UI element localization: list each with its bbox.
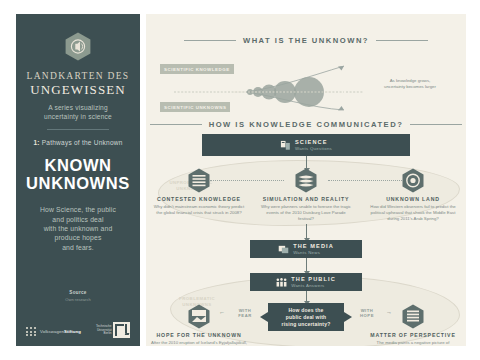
with-fear-label: WITH FEAR (230, 308, 260, 319)
people-icon (276, 277, 287, 288)
brand-tagline: A series visualizing uncertainty in scie… (26, 104, 130, 121)
central-question-box: How does the public deal with rising unc… (268, 303, 344, 331)
node-science-title: SCIENCE (295, 139, 332, 145)
sidebar: LANDKARTEN DES UNGEWISSEN A series visua… (16, 14, 140, 346)
arrow-columns-to-media (306, 224, 307, 238)
arrow-to-perspective-node: → (386, 309, 392, 315)
tag-scientific-unknowns: SCIENTIFIC UNKNOWNS (160, 102, 230, 112)
outcome-body-perspective: The media paints a negative picture of d… (365, 340, 461, 346)
partner-logos: VolkswagenStiftung Technische Universitä… (26, 312, 130, 338)
newspaper-icon (278, 244, 289, 255)
hexagon-crowd-icon (295, 168, 317, 193)
tu-berlin-mark-icon (113, 322, 130, 338)
partner-right-text: Technische Universität Berlin (96, 325, 111, 338)
hexagon-globe-icon (402, 168, 424, 193)
source-label: Source (16, 290, 140, 295)
heading-rule-right (376, 40, 428, 41)
with-hope-label: WITH HOPE (352, 308, 382, 319)
node-science-text: SCIENCE Wants Questions (295, 139, 332, 151)
node-public-text: THE PUBLIC Wants Answers (291, 276, 336, 288)
partner-logo-right: Technische Universität Berlin (96, 322, 130, 338)
outcome-heading-hope: HOPE FOR THE UNKNOWN (151, 332, 247, 338)
source-block: Source Own research (16, 290, 140, 302)
hexagon-layers-icon (188, 168, 210, 193)
brand-line-2: UNGEWISSEN (26, 83, 130, 97)
column-body-unknown-land: How did Western observers fail to predic… (365, 204, 461, 221)
issue-line: 1: Pathways of the Unknown (26, 139, 130, 146)
section-heading-communicated-text: HOW IS KNOWLEDGE COMMUNICATED? (209, 120, 404, 129)
dot-grid-icon (26, 327, 37, 336)
section-heading-unknown-text: WHAT IS THE UNKNOWN? (243, 36, 369, 45)
heading-rule-right-2 (410, 124, 462, 125)
flask-icon (280, 140, 291, 151)
partner-logo-left: VolkswagenStiftung (26, 327, 81, 336)
arrow-science-to-columns (306, 156, 307, 168)
node-public-subtitle: Wants Answers (291, 283, 336, 288)
arrow-media-to-public (306, 258, 307, 271)
heading-rule-left-2 (150, 124, 202, 125)
connector-left (210, 180, 284, 181)
arrow-public-to-question (306, 291, 307, 301)
column-body-simulation: Why were planners unable to foresee the … (258, 204, 354, 221)
node-public[interactable]: THE PUBLIC Wants Answers (250, 273, 362, 291)
issue-label: Pathways of the Unknown (42, 139, 123, 146)
heading-rule-left (184, 40, 236, 41)
hexagon-chart-icon (402, 304, 424, 329)
partner-right-line-3: Berlin (96, 332, 111, 336)
outcome-heading-perspective: MATTER OF PERSPECTIVE (365, 332, 461, 338)
partner-left-name: Volkswagen (40, 329, 64, 334)
node-science[interactable]: SCIENCE Wants Questions (202, 134, 410, 156)
node-science-subtitle: Wants Questions (295, 146, 332, 151)
node-media-text: THE MEDIA Wants News (293, 243, 334, 255)
outcome-body-hope: After the 2010 eruption of Iceland's Eyj… (151, 340, 247, 346)
node-media[interactable]: THE MEDIA Wants News (250, 240, 362, 258)
section-heading-unknown: WHAT IS THE UNKNOWN? (146, 36, 466, 45)
column-heading-simulation: SIMULATION AND REALITY (258, 196, 354, 202)
source-text: Own research (16, 297, 140, 302)
hexagon-speaker-icon (65, 32, 91, 61)
page-blurb: How Science, the public and politics dea… (26, 205, 130, 252)
partner-left-text: VolkswagenStiftung (40, 329, 81, 334)
unknown-growth-note: As knowledge grows, uncertainty becomes … (368, 78, 452, 90)
column-heading-unknown-land: UNKNOWN LAND (365, 196, 461, 202)
issue-number: 1: (33, 139, 39, 146)
node-public-title: THE PUBLIC (291, 276, 336, 282)
arrow-to-hope-node: ← (219, 309, 225, 315)
tag-scientific-knowledge: SCIENTIFIC KNOWLEDGE (160, 64, 234, 74)
infographic-poster: LANDKARTEN DES UNGEWISSEN A series visua… (0, 0, 480, 360)
main-canvas: UNPROBLEMATIC UNKNOWNS PROBLEMATIC UNKNO… (146, 14, 466, 346)
node-media-title: THE MEDIA (293, 243, 334, 249)
column-heading-contested: CONTESTED KNOWLEDGE (151, 196, 247, 202)
partner-left-suffix: Stiftung (64, 329, 81, 334)
column-body-contested: Why didn't mainstream economic theory pr… (151, 204, 247, 216)
section-heading-communicated: HOW IS KNOWLEDGE COMMUNICATED? (146, 120, 466, 129)
hexagon-volcano-icon (188, 304, 210, 329)
node-media-subtitle: Wants News (293, 250, 334, 255)
page-title: KNOWN UNKNOWNS (26, 156, 130, 192)
divider (47, 129, 109, 130)
brand-line-1: LANDKARTEN DES (26, 71, 130, 82)
connector-right (328, 180, 402, 181)
